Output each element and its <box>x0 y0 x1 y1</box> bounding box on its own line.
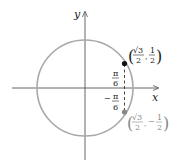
svg-text:,: , <box>144 119 147 128</box>
svg-text:√3: √3 <box>132 113 142 122</box>
svg-text:6: 6 <box>113 103 118 112</box>
coord-label-bottom: ( √3 2 , − 1 2 ) <box>127 113 169 133</box>
unit-circle-diagram: y x π 6 − π 6 ( √3 2 , 1 2 ) ( √3 2 , − … <box>0 0 181 167</box>
svg-text:2: 2 <box>150 56 155 65</box>
y-axis-label: y <box>73 8 81 21</box>
svg-text:π: π <box>113 69 118 78</box>
angle-label-bottom: − π 6 <box>104 92 119 112</box>
svg-text:1: 1 <box>150 46 155 55</box>
svg-text:): ) <box>163 114 169 133</box>
svg-text:π: π <box>113 92 118 101</box>
svg-text:1: 1 <box>157 113 162 122</box>
svg-text:√3: √3 <box>133 46 143 55</box>
svg-text:,: , <box>145 52 148 61</box>
svg-text:2: 2 <box>136 56 141 65</box>
svg-text:2: 2 <box>157 123 162 132</box>
x-axis-label: x <box>152 91 159 104</box>
coord-label-top: ( √3 2 , 1 2 ) <box>128 46 162 66</box>
svg-text:2: 2 <box>135 123 140 132</box>
svg-text:): ) <box>156 47 162 66</box>
svg-text:−: − <box>104 94 111 103</box>
svg-text:6: 6 <box>113 79 118 88</box>
point-top <box>122 61 127 66</box>
angle-label-top: π 6 <box>112 69 119 88</box>
svg-text:−: − <box>148 117 155 126</box>
